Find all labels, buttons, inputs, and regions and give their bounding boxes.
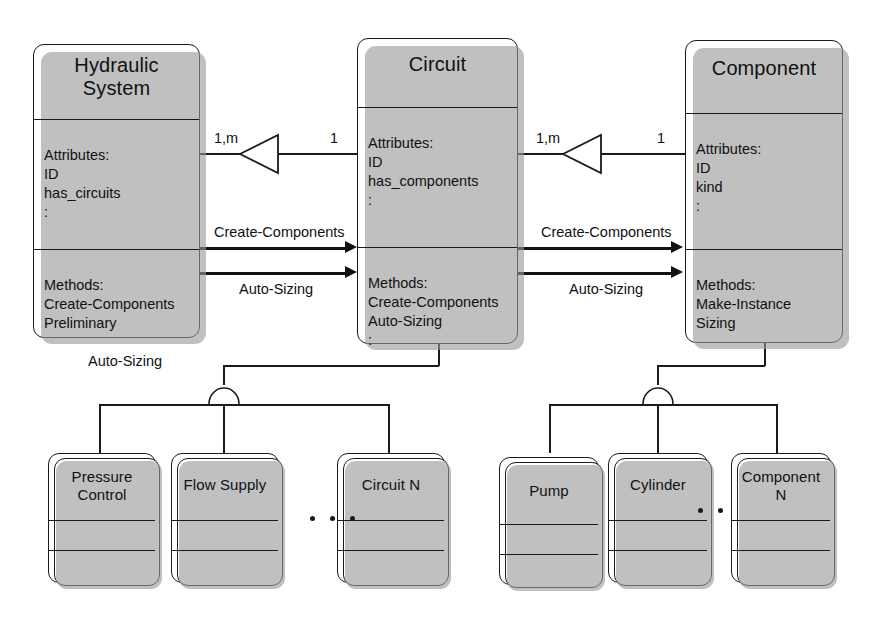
generalization-arc-icon-component	[640, 383, 676, 405]
message-label-create-components-2: Create-Components	[541, 224, 672, 241]
class-divider-1	[609, 520, 707, 521]
ellipsis-component-subclasses	[698, 508, 723, 513]
class-title-component: Component	[686, 41, 842, 80]
class-title-flow-supply: Flow Supply	[172, 454, 278, 494]
class-methods-circuit: Methods: Create-Components Auto-Sizing :	[368, 255, 511, 369]
attributes-list: ID has_circuits :	[44, 165, 193, 222]
message-label-auto-sizing-1: Auto-Sizing	[239, 281, 313, 298]
methods-header: Methods:	[368, 275, 428, 291]
class-box-cylinder[interactable]: Cylinder	[608, 453, 708, 583]
class-attributes-hydraulic-system: Attributes: ID has_circuits :	[44, 127, 193, 241]
class-divider-2	[732, 550, 830, 551]
ellipsis-dot	[698, 508, 703, 513]
generalization-bus-circuit	[99, 404, 389, 406]
ellipsis-dot	[330, 516, 335, 521]
class-methods-hydraulic-system: Methods: Create-Components Preliminary A…	[44, 257, 193, 390]
generalization-leg-pump	[549, 404, 551, 453]
class-box-circuit[interactable]: Circuit Attributes: ID has_components : …	[357, 38, 518, 344]
ellipsis-dot	[310, 516, 315, 521]
class-divider-methods	[34, 249, 199, 250]
message-label-create-components-1: Create-Components	[214, 224, 345, 241]
class-divider-2	[609, 550, 707, 551]
ellipsis-circuit-subclasses	[310, 516, 355, 521]
attributes-header: Attributes:	[696, 141, 761, 157]
class-title-hydraulic-system: Hydraulic System	[34, 45, 199, 100]
generalization-leg-circuit-n	[388, 404, 390, 453]
aggregation-triangle-circuit-component	[560, 132, 604, 176]
message-line-auto-sizing-1	[200, 272, 346, 275]
class-divider-2	[49, 550, 155, 551]
attributes-header: Attributes:	[44, 147, 109, 163]
message-label-auto-sizing-2: Auto-Sizing	[569, 281, 643, 298]
message-line-create-components-1	[200, 247, 346, 250]
generalization-leg-component-n	[776, 404, 778, 453]
generalization-stem-circuit	[223, 365, 225, 385]
message-line-auto-sizing-2	[518, 272, 672, 275]
ellipsis-dot	[350, 516, 355, 521]
message-line-create-components-2	[518, 247, 672, 250]
class-divider-methods	[686, 249, 842, 250]
class-divider-attributes	[686, 113, 842, 114]
methods-header: Methods:	[696, 277, 756, 293]
class-diagram-canvas: Hydraulic System Attributes: ID has_circ…	[0, 0, 877, 620]
methods-hanging-item: Auto-Sizing	[44, 352, 193, 371]
class-divider-attributes	[34, 119, 199, 120]
methods-header: Methods:	[44, 277, 104, 293]
class-box-flow-supply[interactable]: Flow Supply	[171, 453, 279, 583]
ellipsis-dot	[718, 508, 723, 513]
class-divider-2	[338, 550, 444, 551]
class-title-circuit: Circuit	[358, 39, 517, 76]
attributes-list: ID kind :	[696, 159, 836, 216]
class-box-component-n[interactable]: Component N	[731, 453, 831, 583]
generalization-arc-icon-circuit	[206, 383, 242, 405]
class-divider-2	[172, 550, 278, 551]
class-divider-attributes	[358, 107, 517, 108]
class-methods-component: Methods: Make-Instance Sizing	[696, 257, 836, 352]
class-title-component-n: Component N	[732, 454, 830, 504]
class-title-cylinder: Cylinder	[609, 454, 707, 494]
generalization-elbow-component	[657, 365, 765, 367]
aggregation-triangle-hydraulic-circuit	[237, 132, 281, 176]
class-title-pressure-control: Pressure Control	[49, 454, 155, 504]
class-divider-methods	[358, 247, 517, 248]
multiplicity-target-circuit-component: 1	[657, 130, 665, 146]
generalization-leg-pressure-control	[99, 404, 101, 453]
class-divider-2	[500, 554, 598, 555]
class-attributes-circuit: Attributes: ID has_components :	[368, 115, 511, 229]
attributes-header: Attributes:	[368, 135, 433, 151]
class-title-pump: Pump	[500, 458, 598, 500]
methods-list: Create-Components Preliminary	[44, 295, 193, 333]
message-arrowhead-auto-sizing-1	[345, 266, 357, 278]
class-box-pump[interactable]: Pump	[499, 457, 599, 585]
multiplicity-source-hydraulic-circuit: 1,m	[214, 130, 238, 146]
generalization-stem-component	[657, 365, 659, 385]
methods-list: Create-Components Auto-Sizing :	[368, 293, 511, 350]
methods-list: Make-Instance Sizing	[696, 295, 836, 333]
class-box-component[interactable]: Component Attributes: ID kind : Methods:…	[685, 40, 843, 343]
class-divider-1	[500, 524, 598, 525]
multiplicity-target-hydraulic-circuit: 1	[330, 130, 338, 146]
attributes-list: ID has_components :	[368, 153, 511, 210]
multiplicity-source-circuit-component: 1,m	[536, 130, 560, 146]
message-arrowhead-auto-sizing-2	[671, 266, 683, 278]
class-attributes-component: Attributes: ID kind :	[696, 121, 836, 235]
message-arrowhead-create-components-2	[671, 241, 683, 253]
message-arrowhead-create-components-1	[345, 241, 357, 253]
class-title-circuit-n: Circuit N	[338, 454, 444, 494]
class-box-hydraulic-system[interactable]: Hydraulic System Attributes: ID has_circ…	[33, 44, 200, 338]
generalization-leg-flow-supply	[223, 404, 225, 453]
class-divider-1	[49, 520, 155, 521]
class-box-pressure-control[interactable]: Pressure Control	[48, 453, 156, 583]
class-divider-1	[172, 520, 278, 521]
generalization-leg-cylinder	[657, 404, 659, 453]
class-divider-1	[732, 520, 830, 521]
